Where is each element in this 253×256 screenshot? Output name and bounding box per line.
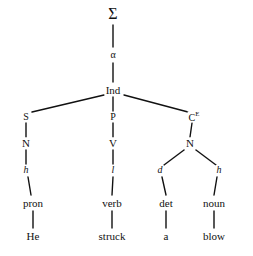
syntax-tree-diagram: ΣαIndSPCENVNhldhpronverbdetnounHestrucka… [0, 0, 253, 256]
tree-node-label: C [189, 112, 196, 123]
tree-node-struck: struck [98, 231, 127, 242]
tree-node-sigma: Σ [107, 6, 118, 22]
tree-node-label: h [217, 164, 222, 175]
tree-node-label: noun [203, 197, 225, 209]
tree-node-superscript: E [195, 110, 199, 117]
tree-node-label: Ind [106, 84, 121, 96]
tree-node-n-left: N [21, 138, 31, 149]
tree-node-he: He [26, 231, 41, 242]
tree-edge-layer [0, 0, 253, 256]
tree-node-label: verb [102, 197, 122, 209]
tree-edge-h-noun [214, 177, 217, 195]
tree-node-label: struck [99, 230, 126, 242]
tree-node-n-right: N [185, 138, 195, 149]
tree-node-h-right: h [216, 165, 223, 175]
tree-edge-nright-d [164, 150, 184, 165]
tree-node-label: He [27, 230, 40, 242]
tree-node-pron: pron [22, 198, 44, 209]
tree-node-h-left: h [23, 165, 30, 175]
tree-node-label: V [109, 137, 117, 149]
tree-node-s-branch: S [22, 112, 30, 122]
tree-node-v-mid: V [108, 138, 118, 149]
tree-node-label: det [159, 197, 172, 209]
tree-edge-nright-h [196, 150, 216, 165]
tree-edge-c-n [190, 123, 192, 137]
tree-node-label: N [186, 137, 194, 149]
tree-node-p-branch: P [109, 112, 117, 122]
tree-node-label: Σ [108, 5, 117, 22]
tree-node-label: pron [23, 197, 43, 209]
tree-node-d-det: d [157, 165, 164, 175]
tree-node-label: a [164, 230, 169, 242]
tree-node-label: S [23, 111, 29, 122]
tree-node-label: blow [203, 230, 225, 242]
tree-node-ind: Ind [105, 85, 122, 96]
tree-node-label: h [24, 164, 29, 175]
tree-edge-ind-c [124, 95, 188, 112]
tree-node-noun: noun [202, 198, 226, 209]
tree-node-det: det [158, 198, 173, 209]
tree-node-label: α [110, 49, 115, 60]
tree-node-blow: blow [202, 231, 226, 242]
tree-edge-l-verb [112, 177, 113, 195]
tree-node-c-branch: CE [188, 111, 201, 122]
tree-edge-h-pron [28, 177, 31, 195]
tree-node-verb: verb [101, 198, 123, 209]
tree-edge-d-det [162, 177, 166, 195]
tree-node-label: l [112, 164, 115, 175]
tree-edge-ind-s [32, 95, 104, 112]
tree-node-label: d [158, 164, 163, 175]
tree-node-label: N [22, 137, 30, 149]
tree-node-a: a [163, 231, 170, 242]
tree-node-label: P [110, 111, 116, 122]
tree-node-l-mid: l [111, 165, 116, 175]
tree-node-alpha: α [109, 50, 116, 60]
